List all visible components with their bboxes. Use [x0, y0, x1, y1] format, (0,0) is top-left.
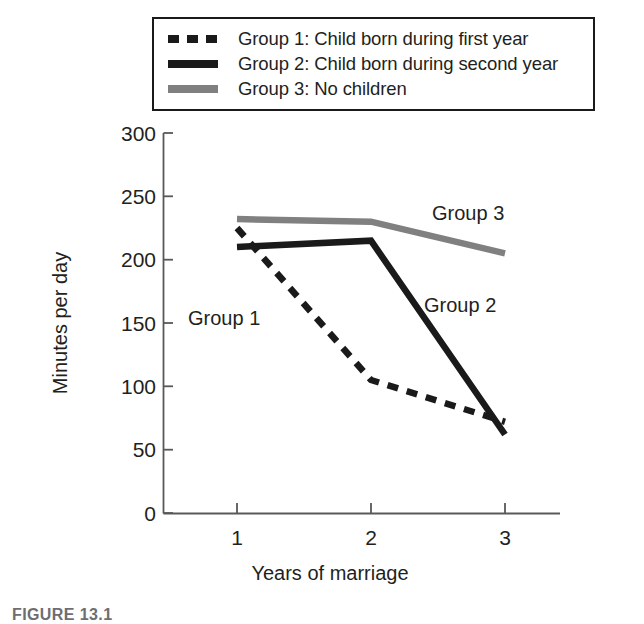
series-line-group-2 [237, 241, 505, 435]
y-tick-label-0: 0 [144, 502, 156, 525]
y-axis-ticks [164, 133, 174, 513]
inplot-label-group-1: Group 1 [188, 307, 260, 329]
series-line-group-1 [237, 228, 505, 422]
x-axis-tick-labels: 1 2 3 [231, 526, 511, 549]
x-tick-label-2: 2 [365, 526, 377, 549]
inplot-label-group-2: Group 2 [424, 294, 496, 316]
y-axis-title: Minutes per day [49, 252, 71, 394]
x-axis-ticks [237, 503, 505, 514]
y-tick-label-200: 200 [121, 248, 156, 271]
figure-caption: FIGURE 13.1 [12, 606, 112, 624]
x-axis-title: Years of marriage [251, 562, 408, 584]
y-axis-tick-labels: 300 250 200 150 100 50 0 [121, 122, 156, 525]
x-tick-label-3: 3 [499, 526, 511, 549]
inplot-label-group-3: Group 3 [432, 202, 504, 224]
y-tick-label-100: 100 [121, 375, 156, 398]
y-tick-label-150: 150 [121, 312, 156, 335]
y-tick-label-250: 250 [121, 185, 156, 208]
y-tick-label-50: 50 [133, 438, 156, 461]
y-tick-label-300: 300 [121, 122, 156, 145]
line-chart: 300 250 200 150 100 50 0 1 2 3 Years of … [0, 0, 644, 624]
x-tick-label-1: 1 [231, 526, 243, 549]
